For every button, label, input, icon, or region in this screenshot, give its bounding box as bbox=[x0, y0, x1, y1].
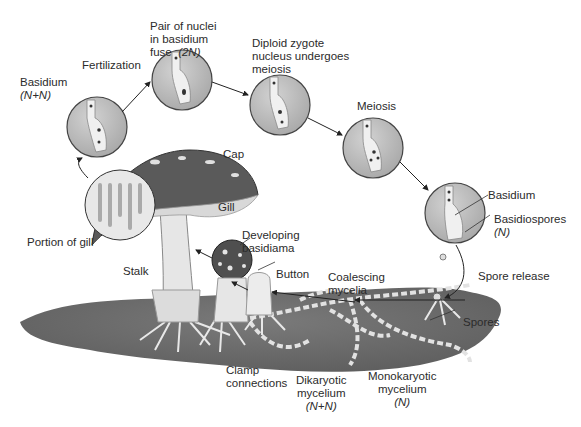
label-coalescing-mycelia: Coalescing mycelia bbox=[328, 271, 385, 297]
label-portion-of-gill: Portion of gill bbox=[27, 236, 93, 249]
label-zygote-meiosis: Diploid zygote nucleus undergoes meiosis bbox=[252, 37, 349, 76]
arrow-meiosis bbox=[308, 118, 342, 135]
label-button: Button bbox=[276, 268, 309, 281]
label-meiosis: Meiosis bbox=[357, 100, 396, 113]
annulus bbox=[152, 290, 200, 322]
arrow-fuse bbox=[212, 82, 248, 95]
label-dikaryotic-mycelium: Dikaryotic mycelium (N+N) bbox=[296, 374, 346, 413]
label-basidiospores: Basidiospores (N) bbox=[494, 213, 566, 239]
label-basidium-nn: Basidium (N+N) bbox=[20, 76, 67, 102]
label-gill: Gill bbox=[218, 201, 235, 214]
arrow-to-basidiospores bbox=[400, 162, 428, 190]
label-fertilization: Fertilization bbox=[82, 59, 141, 72]
life-cycle-diagram: Basidium (N+N) Fertilization Pair of nuc… bbox=[0, 0, 581, 427]
arrow-to-stalk bbox=[196, 250, 212, 258]
label-stalk: Stalk bbox=[123, 265, 149, 278]
label-clamp-connections: Clamp connections bbox=[226, 364, 287, 390]
label-monokaryotic-mycelium: Monokaryotic mycelium (N) bbox=[368, 370, 436, 409]
label-spores: Spores bbox=[463, 316, 499, 329]
label-basidium: Basidium bbox=[488, 189, 535, 202]
label-developing-basidiama: Developing basidiama bbox=[242, 229, 300, 255]
label-spore-release: Spore release bbox=[478, 270, 550, 283]
button-mushroom bbox=[246, 273, 272, 316]
arrow-gill-to-basidium bbox=[79, 158, 88, 178]
label-nuclei-fuse: Pair of nuclei in basidium fuse (2N) bbox=[150, 20, 216, 59]
arrow-fertilization bbox=[122, 82, 150, 112]
label-cap: Cap bbox=[223, 148, 244, 161]
